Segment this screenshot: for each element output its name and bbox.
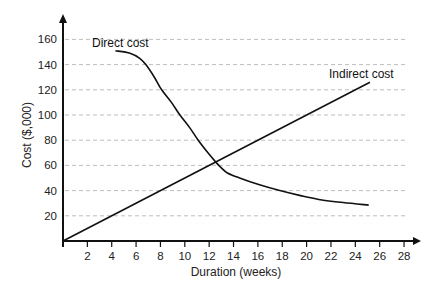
series-lines xyxy=(63,51,370,241)
x-tick-label: 10 xyxy=(178,250,191,262)
x-tick-label: 24 xyxy=(349,250,362,262)
y-tick-label: 40 xyxy=(44,185,57,197)
x-tick-label: 26 xyxy=(373,250,386,262)
y-axis-ticks: 20406080100120140160 xyxy=(38,33,57,221)
y-tick-label: 160 xyxy=(38,33,57,45)
x-axis-title: Duration (weeks) xyxy=(191,265,282,279)
x-tick-label: 22 xyxy=(325,250,338,262)
gridlines xyxy=(65,39,408,215)
y-tick-label: 20 xyxy=(44,210,57,222)
x-tick-label: 4 xyxy=(109,250,116,262)
y-tick-label: 60 xyxy=(44,159,57,171)
x-tick-label: 6 xyxy=(133,250,139,262)
direct-cost-label: Direct cost xyxy=(92,36,149,50)
y-tick-label: 140 xyxy=(38,59,57,71)
x-tick-label: 12 xyxy=(203,250,216,262)
x-tick-label: 2 xyxy=(84,250,90,262)
x-tick-label: 16 xyxy=(251,250,264,262)
x-tick-label: 18 xyxy=(276,250,289,262)
y-axis-arrow-icon xyxy=(59,14,67,23)
x-tick-label: 28 xyxy=(398,250,411,262)
y-tick-label: 100 xyxy=(38,109,57,121)
x-axis-arrow-icon xyxy=(413,237,421,245)
y-axis-title: Cost ($,000) xyxy=(20,102,34,168)
x-tick-label: 14 xyxy=(227,250,240,262)
indirect-cost-label: Indirect cost xyxy=(329,67,394,81)
x-tick-label: 20 xyxy=(300,250,313,262)
x-tick-label: 8 xyxy=(157,250,163,262)
cost-duration-chart: 246810121416182022242628 204060801001201… xyxy=(0,0,440,292)
chart-canvas: 246810121416182022242628 204060801001201… xyxy=(0,0,440,292)
x-axis-ticks: 246810121416182022242628 xyxy=(84,241,410,262)
y-tick-label: 120 xyxy=(38,84,57,96)
indirect-cost-line xyxy=(63,82,370,241)
y-tick-label: 80 xyxy=(44,134,57,146)
